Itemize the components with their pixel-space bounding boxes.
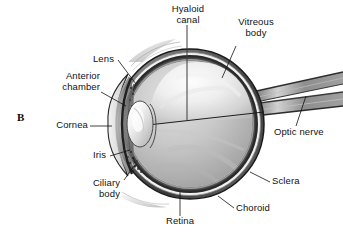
label-lens: Lens [70, 54, 114, 65]
label-hyaloid-canal: Hyaloid canal [160, 4, 216, 25]
label-choroid: Choroid [236, 203, 270, 214]
label-anterior-chamber: Anterior chamber [34, 71, 100, 92]
label-sclera: Sclera [272, 176, 300, 187]
panel-letter-b: B [17, 111, 24, 123]
sclera-leader-line [250, 172, 270, 182]
label-vitreous-body: Vitreous body [227, 17, 285, 38]
eye-sagittal-section-illustration [0, 0, 343, 238]
label-optic-nerve: Optic nerve [274, 127, 324, 138]
choroid-leader-line [218, 196, 234, 208]
label-iris: Iris [68, 150, 106, 161]
label-cornea: Cornea [36, 120, 88, 131]
label-ciliary-body: Ciliary body [62, 178, 120, 199]
optic-nerve-structure [252, 72, 343, 116]
eye-anatomy-figure: B Hyaloid canal Vitreous body Lens Anter… [0, 0, 343, 238]
label-retina: Retina [157, 216, 203, 227]
